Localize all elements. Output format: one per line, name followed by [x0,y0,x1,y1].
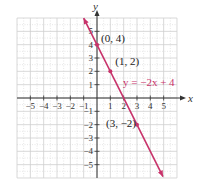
y-tick-label: −5 [83,160,93,170]
x-axis-arrow-icon [180,96,186,101]
y-tick-label: 2 [89,66,94,76]
x-tick-label: −5 [26,101,36,111]
data-point [95,43,99,47]
point-label: (1, 2) [115,55,139,68]
x-tick-label: −4 [39,101,49,111]
y-tick-label: −4 [83,146,93,156]
y-tick-label: −1 [83,106,93,116]
data-point [108,69,112,73]
y-tick-label: 3 [89,53,94,63]
y-tick-label: −2 [83,120,93,130]
y-tick-label: 1 [89,80,94,90]
point-label: (0, 4) [101,32,125,45]
x-axis-label: x [187,92,193,104]
equation-label: y = −2x + 4 [123,76,175,88]
x-tick-label: 3 [135,101,140,111]
x-tick-label: 5 [161,101,166,111]
coordinate-graph: −5−4−3−2−11234554321−1−2−3−4−5 xy(0, 4)(… [0,0,197,190]
x-tick-label: 4 [148,101,153,111]
x-tick-label: 1 [108,101,113,111]
x-tick-label: −3 [52,101,62,111]
x-tick-label: −2 [66,101,76,111]
y-tick-label: 4 [89,40,94,50]
y-tick-label: −3 [83,133,93,143]
y-axis-label: y [92,0,98,12]
point-label: (3, −2) [106,117,136,130]
